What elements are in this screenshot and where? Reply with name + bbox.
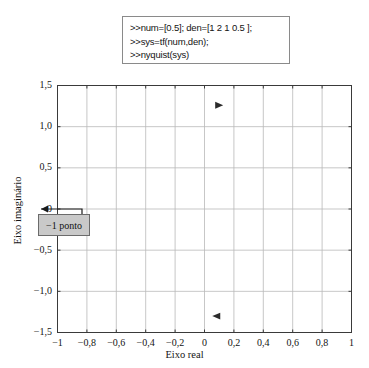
direction-arrow-bottom xyxy=(212,313,220,320)
gridlines xyxy=(58,86,352,333)
y-tick-label: −1,0 xyxy=(20,285,52,296)
plot-area: 1,51,00,50−0,5−1,0−1,5 −1−0,8−0,6−0,4−0,… xyxy=(0,0,369,368)
direction-arrows xyxy=(212,102,223,320)
nyquist-plot-svg xyxy=(0,0,369,368)
y-axis-title: Eixo imaginário xyxy=(12,146,23,276)
y-tick-label: −0,5 xyxy=(20,244,52,255)
x-axis-title: Eixo real xyxy=(0,349,369,360)
y-tick-label: 0 xyxy=(20,203,52,214)
minus-one-point-annotation: −1 ponto xyxy=(38,214,90,236)
x-tick-label: 1 xyxy=(335,337,369,348)
y-tick-label: 0,5 xyxy=(20,161,52,172)
y-tick-label: 1,0 xyxy=(20,120,52,131)
y-tick-label: 1,5 xyxy=(20,79,52,90)
y-tick-label: −1,5 xyxy=(20,326,52,337)
nyquist-figure: >>num=[0.5]; den=[1 2 1 0.5 ]; >>sys=tf(… xyxy=(0,0,369,368)
direction-arrow-top xyxy=(215,102,223,109)
